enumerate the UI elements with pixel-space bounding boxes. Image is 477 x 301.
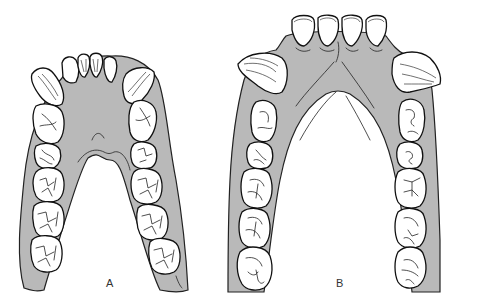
panel-label-a: A [106,277,113,289]
panel-label-b: B [336,277,343,289]
posterior-teeth-left-a [31,104,64,272]
jaw-b [228,15,441,292]
posterior-teeth-right-b [395,99,426,288]
canine-left-a [31,68,63,106]
dental-arch-figure [0,0,477,301]
canine-right-b [392,52,441,92]
jaw-a [19,53,188,292]
